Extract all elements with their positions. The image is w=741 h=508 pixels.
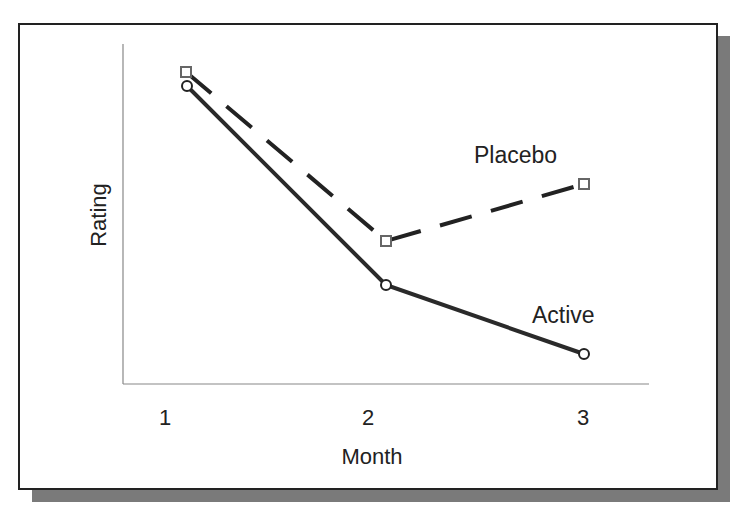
x-tick-label-1: 1 [159,405,171,430]
y-axis-title: Rating [86,183,111,247]
chart-plot: Placebo Active 1 2 3 Month Rating [0,0,741,508]
active-marker-circle [381,280,391,290]
active-marker-circle [182,81,192,91]
active-label: Active [532,302,595,328]
placebo-marker-square [579,179,589,189]
x-axis-title: Month [341,444,402,469]
active-marker-circle [579,349,589,359]
placebo-marker-square [381,236,391,246]
placebo-label: Placebo [474,142,557,168]
placebo-marker-square [181,67,191,77]
x-tick-label-3: 3 [577,405,589,430]
active-series-line [187,86,584,354]
x-tick-label-2: 2 [362,405,374,430]
